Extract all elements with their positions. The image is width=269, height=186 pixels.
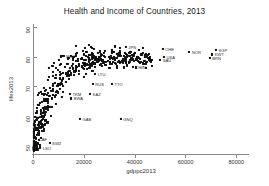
data-point xyxy=(53,62,55,64)
data-point xyxy=(61,79,63,81)
y-axis-label-text: lifex2013 xyxy=(8,77,14,101)
data-point xyxy=(52,83,54,85)
data-point xyxy=(43,130,45,132)
data-point xyxy=(54,95,56,97)
data-point xyxy=(58,59,60,61)
chart-canvas: Health and Income of Countries, 2013 lif… xyxy=(0,0,269,186)
data-point xyxy=(77,73,79,75)
data-point xyxy=(127,54,129,56)
data-point xyxy=(42,118,44,120)
data-point xyxy=(45,111,47,113)
data-point-kaz xyxy=(89,93,91,95)
data-point xyxy=(112,61,114,63)
data-point-gnq xyxy=(120,118,122,120)
data-point-nor xyxy=(188,51,190,53)
data-point xyxy=(91,65,93,67)
data-point-caf xyxy=(35,138,37,140)
data-point xyxy=(147,57,149,59)
data-point xyxy=(119,54,121,56)
data-point xyxy=(33,142,35,144)
data-point xyxy=(41,101,43,103)
data-point xyxy=(68,74,70,76)
data-point xyxy=(133,53,135,55)
data-point xyxy=(57,69,59,71)
data-point xyxy=(109,63,111,65)
data-point xyxy=(119,62,121,64)
point-label-mco: MCO xyxy=(66,53,76,58)
point-label-brn: BRN xyxy=(212,55,221,60)
data-point xyxy=(125,62,127,64)
data-point xyxy=(96,60,98,62)
data-point xyxy=(90,46,92,48)
data-point xyxy=(37,127,39,129)
data-point xyxy=(121,60,123,62)
plot-area: 5060708090020000400006000080000SGPKWTBRN… xyxy=(33,24,249,154)
data-point xyxy=(59,70,61,72)
data-point-che xyxy=(162,48,164,50)
data-point xyxy=(123,55,125,57)
data-point-gab xyxy=(79,117,81,119)
data-point xyxy=(50,98,52,100)
data-point xyxy=(48,66,50,68)
data-point xyxy=(33,147,35,149)
data-point xyxy=(62,72,64,74)
data-point xyxy=(38,92,40,94)
data-point xyxy=(49,106,51,108)
data-point xyxy=(91,70,93,72)
data-point xyxy=(38,121,40,123)
data-point xyxy=(111,57,113,59)
data-point xyxy=(138,49,140,51)
data-point-sau xyxy=(159,59,161,61)
point-label-bwa: BWA xyxy=(74,96,83,101)
data-point xyxy=(45,98,47,100)
data-point xyxy=(87,64,89,66)
data-point xyxy=(41,125,43,127)
data-point xyxy=(43,128,45,130)
data-point xyxy=(42,112,44,114)
data-point xyxy=(111,52,113,54)
data-point xyxy=(35,127,37,129)
data-point xyxy=(83,75,85,77)
data-point xyxy=(94,66,96,68)
data-point xyxy=(52,88,54,90)
data-point xyxy=(75,65,77,67)
data-point xyxy=(33,131,35,133)
point-label-omn: OMN xyxy=(136,65,146,70)
data-point-sgp xyxy=(215,49,217,51)
point-label-kaz: KAZ xyxy=(93,91,101,96)
data-point xyxy=(36,117,38,119)
data-point xyxy=(47,79,49,81)
data-point xyxy=(71,65,73,67)
data-point xyxy=(102,59,104,61)
x-axis-line xyxy=(32,154,249,155)
data-point xyxy=(97,52,99,54)
data-point xyxy=(37,148,39,150)
data-point xyxy=(108,67,110,69)
data-point xyxy=(99,64,101,66)
data-point xyxy=(84,47,86,49)
data-point xyxy=(44,106,46,108)
data-point xyxy=(55,91,57,93)
data-point xyxy=(144,54,146,56)
data-point-mco xyxy=(62,55,64,57)
data-point xyxy=(73,74,75,76)
data-point xyxy=(36,143,38,145)
data-point xyxy=(68,78,70,80)
data-point xyxy=(114,62,116,64)
data-point-bwa xyxy=(70,97,72,99)
data-point-brn xyxy=(209,57,211,59)
data-point xyxy=(78,70,80,72)
data-point xyxy=(150,61,152,63)
data-point xyxy=(44,89,46,91)
data-point xyxy=(37,104,39,106)
data-point xyxy=(123,66,125,68)
data-point xyxy=(103,55,105,57)
data-point xyxy=(129,55,131,57)
data-point xyxy=(114,45,116,47)
data-point xyxy=(65,81,67,83)
data-point xyxy=(148,53,150,55)
data-point xyxy=(51,106,53,108)
data-point-tkm xyxy=(69,93,71,95)
data-point-omn xyxy=(132,66,134,68)
data-point xyxy=(32,123,34,125)
